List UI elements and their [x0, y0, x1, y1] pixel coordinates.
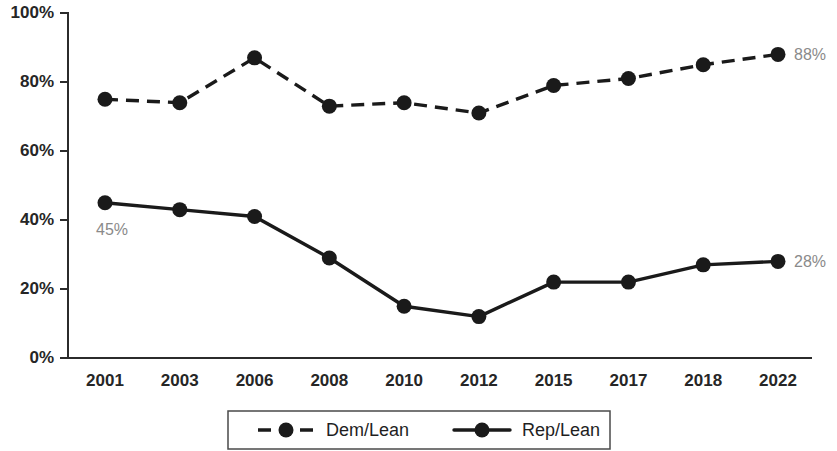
series-line-rep-lean — [105, 203, 778, 317]
data-point-marker — [546, 275, 561, 290]
legend-marker-sample — [475, 423, 490, 438]
y-axis-ticks — [60, 13, 68, 358]
x-tick-label: 2015 — [535, 371, 573, 390]
x-tick-label: 2003 — [161, 371, 199, 390]
data-point-marker — [98, 92, 113, 107]
data-point-marker — [471, 106, 486, 121]
y-tick-label: 0% — [29, 348, 54, 367]
x-tick-label: 2012 — [460, 371, 498, 390]
y-tick-label: 20% — [20, 279, 54, 298]
x-tick-label: 2022 — [759, 371, 797, 390]
data-point-marker — [546, 78, 561, 93]
legend-marker-sample — [279, 423, 294, 438]
chart-container: 0%20%40%60%80%100% 200120032006200820102… — [0, 0, 837, 451]
data-point-marker — [322, 99, 337, 114]
value-annotation: 28% — [794, 253, 826, 270]
y-tick-label: 100% — [11, 3, 54, 22]
data-point-marker — [247, 50, 262, 65]
y-tick-label: 40% — [20, 210, 54, 229]
x-tick-label: 2001 — [86, 371, 124, 390]
data-point-marker — [771, 47, 786, 62]
chart-legend: Dem/LeanRep/Lean — [228, 411, 610, 449]
y-axis-tick-labels: 0%20%40%60%80%100% — [11, 3, 54, 367]
series-line-dem-lean — [105, 54, 778, 113]
x-tick-label: 2010 — [385, 371, 423, 390]
data-point-marker — [771, 254, 786, 269]
value-annotation: 45% — [96, 221, 128, 238]
legend-label-rep-lean[interactable]: Rep/Lean — [522, 420, 600, 440]
data-point-marker — [696, 257, 711, 272]
data-point-marker — [322, 250, 337, 265]
data-point-marker — [471, 309, 486, 324]
line-chart: 0%20%40%60%80%100% 200120032006200820102… — [0, 0, 837, 451]
data-point-marker — [621, 71, 636, 86]
data-point-marker — [696, 57, 711, 72]
y-tick-label: 80% — [20, 72, 54, 91]
data-point-marker — [397, 299, 412, 314]
data-point-marker — [98, 195, 113, 210]
data-annotations-group: 88%28%45% — [96, 46, 826, 270]
data-point-marker — [247, 209, 262, 224]
data-point-marker — [172, 95, 187, 110]
series-markers-group — [98, 47, 786, 324]
series-lines-group — [105, 54, 778, 316]
x-tick-label: 2018 — [684, 371, 722, 390]
x-tick-label: 2006 — [236, 371, 274, 390]
x-axis-tick-labels: 2001200320062008201020122015201720182022 — [86, 371, 797, 390]
data-point-marker — [397, 95, 412, 110]
legend-label-dem-lean[interactable]: Dem/Lean — [326, 420, 409, 440]
value-annotation: 88% — [794, 46, 826, 63]
y-tick-label: 60% — [20, 141, 54, 160]
data-point-marker — [172, 202, 187, 217]
x-tick-label: 2017 — [610, 371, 648, 390]
x-tick-label: 2008 — [310, 371, 348, 390]
data-point-marker — [621, 275, 636, 290]
